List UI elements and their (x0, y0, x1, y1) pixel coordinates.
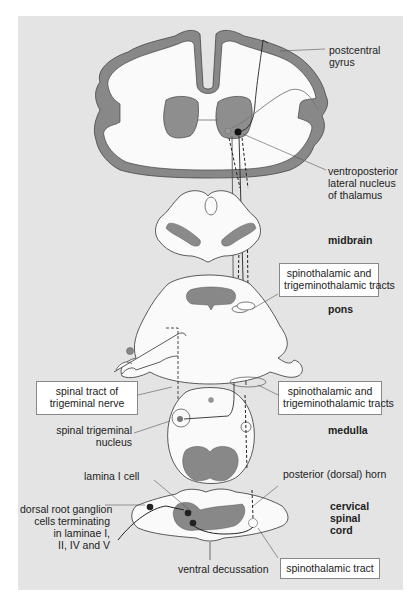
label-midbrain: midbrain (328, 234, 372, 246)
label-medulla: medulla (328, 424, 368, 436)
box-spinothalamic-tract: spinothalamic tract (280, 558, 380, 579)
label-postcentral-gyrus: postcentral gyrus (329, 44, 380, 68)
label-cervical-spinal-cord: cervical spinal cord (330, 500, 369, 536)
label-pons: pons (328, 303, 353, 315)
label-lamina-i-cell: lamina I cell (84, 470, 139, 482)
midbrain-section (156, 191, 261, 262)
pons-section (114, 275, 302, 404)
box-spinothalamic-pons: spinothalamic and trigeminothalamic trac… (279, 263, 379, 297)
label-vpl-nucleus: ventroposterior lateral nucleus of thala… (328, 165, 398, 201)
cervical-cord-section (118, 489, 288, 560)
label-ventral-decussation: ventral decussation (178, 563, 268, 575)
medulla-section (168, 384, 255, 484)
label-spinal-trigeminal-nucleus: spinal trigeminal nucleus (40, 424, 132, 448)
label-posterior-horn: posterior (dorsal) horn (283, 468, 386, 480)
box-spinothalamic-medulla: spinothalamic and trigeminothalamic trac… (278, 381, 382, 415)
label-drg-cells: dorsal root ganglion cells terminating i… (20, 503, 110, 551)
box-spinal-tract-trigeminal: spinal tract of trigeminal nerve (36, 381, 138, 415)
